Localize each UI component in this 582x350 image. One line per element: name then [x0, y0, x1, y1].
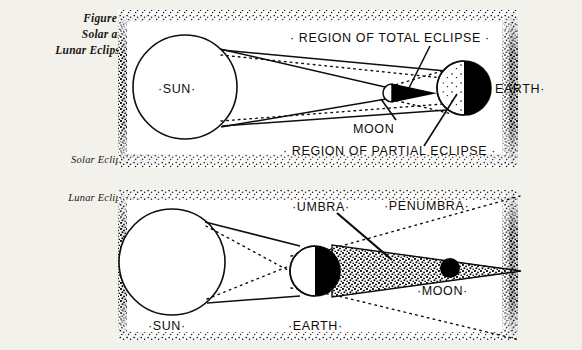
- label-sun-lunar: ·SUN·: [148, 319, 186, 333]
- label-umbra: ·UMBRA·: [292, 200, 350, 214]
- eclipse-diagram-svg: · REGION OF TOTAL ECLIPSE · MOON · REGIO…: [0, 0, 582, 350]
- lunar-eclipse-panel: ·UMBRA· ·PENUMBRA· ·MOON· ·SUN· ·EARTH·: [118, 190, 521, 340]
- label-penumbra: ·PENUMBRA·: [384, 199, 469, 213]
- label-sun-solar: ·SUN·: [158, 82, 196, 96]
- solar-eclipse-panel: · REGION OF TOTAL ECLIPSE · MOON · REGIO…: [118, 10, 545, 168]
- earth-body-solar: [437, 61, 491, 115]
- label-total-eclipse: · REGION OF TOTAL ECLIPSE ·: [290, 31, 490, 45]
- earth-body-lunar: [290, 246, 340, 296]
- label-partial-eclipse: · REGION OF PARTIAL ECLIPSE ·: [283, 144, 496, 158]
- figure-canvas: Figure 3: Solar and Lunar Eclipses Solar…: [0, 0, 582, 350]
- label-earth-solar: EARTH·: [495, 82, 545, 96]
- label-moon-solar: MOON: [353, 122, 394, 136]
- moon-body-lunar: [440, 258, 460, 278]
- sun-body-lunar: [119, 209, 225, 315]
- label-earth-lunar: ·EARTH·: [288, 319, 343, 333]
- label-moon-lunar: ·MOON·: [417, 284, 468, 298]
